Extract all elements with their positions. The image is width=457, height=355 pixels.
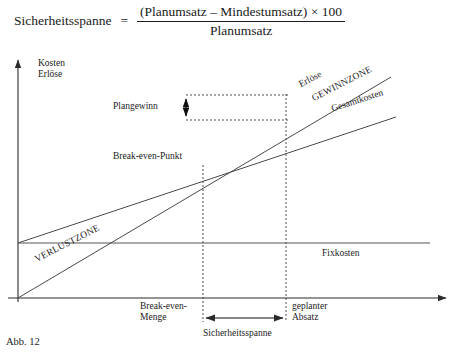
label-break-even-punkt: Break-even-Punkt bbox=[113, 151, 182, 162]
y-axis-label: KostenErlöse bbox=[38, 58, 65, 80]
label-break-even-menge: Break-even-Menge bbox=[140, 301, 187, 323]
label-geplanter-absatz: geplanterAbsatz bbox=[292, 301, 327, 323]
label-sicherheitsspanne: Sicherheitsspanne bbox=[203, 328, 272, 339]
figure-break-even-chart: Sicherheitsspanne = (Planumsatz – Mindes… bbox=[0, 0, 457, 355]
label-break-even-menge-line2: Menge bbox=[140, 312, 166, 322]
series-line-gesamtkosten bbox=[18, 117, 396, 243]
y-axis-label-line2: Erlöse bbox=[38, 69, 62, 79]
label-geplanter-absatz-line1: geplanter bbox=[292, 301, 327, 311]
label-geplanter-absatz-line2: Absatz bbox=[292, 312, 318, 322]
y-axis-label-line1: Kosten bbox=[38, 58, 65, 68]
label-plangewinn: Plangewinn bbox=[113, 101, 158, 112]
chart-canvas bbox=[0, 0, 457, 355]
label-fixkosten: Fixkosten bbox=[322, 248, 359, 259]
figure-caption: Abb. 12 bbox=[6, 336, 40, 347]
label-break-even-menge-line1: Break-even- bbox=[140, 301, 187, 311]
